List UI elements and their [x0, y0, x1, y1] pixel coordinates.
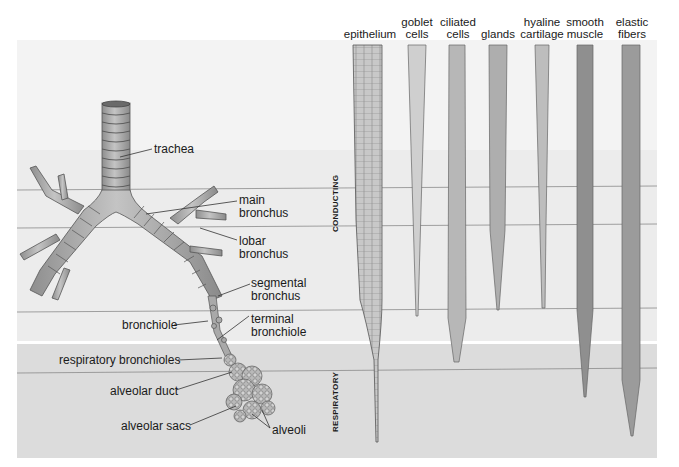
label-terminal-bronchiole: terminalbronchiole	[251, 313, 306, 339]
zone-label-respiratory: RESPIRATORY	[331, 372, 340, 432]
zone-divider	[17, 341, 657, 344]
header-ciliated-cells: ciliatedcells	[436, 16, 480, 40]
header-elastic-fibers: elasticfibers	[610, 16, 654, 40]
header-smooth-muscle: smoothmuscle	[563, 16, 607, 40]
label-trachea: trachea	[154, 143, 194, 156]
elastic-fibers-wedge	[622, 45, 640, 436]
label-alveoli: alveoli	[272, 424, 306, 437]
label-bronchiole: bronchiole	[122, 319, 177, 332]
label-respiratory-bronchioles: respiratory bronchioles	[59, 354, 180, 367]
ciliated-cells-wedge	[448, 45, 466, 362]
header-epithelium: epithelium	[340, 28, 400, 40]
trachea-graphic	[102, 101, 130, 191]
airway-diagram: epithelium gobletcells ciliatedcells gla…	[0, 0, 679, 467]
label-lobar-bronchus: lobarbronchus	[239, 235, 288, 261]
label-segmental-bronchus: segmentalbronchus	[251, 277, 306, 303]
zone-label-conducting: CONDUCTING	[331, 175, 340, 232]
label-alveolar-sacs: alveolar sacs	[121, 420, 191, 433]
label-alveolar-duct: alveolar duct	[110, 385, 178, 398]
label-main-bronchus: mainbronchus	[239, 194, 288, 220]
header-hyaline-cartilage: hyalinecartilage	[519, 16, 565, 40]
header-glands: glands	[478, 28, 518, 40]
header-goblet-cells: gobletcells	[397, 16, 437, 40]
